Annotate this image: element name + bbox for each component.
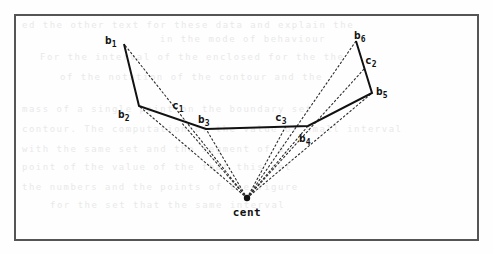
boundary-point-label-b2: b2 — [118, 108, 130, 123]
boundary-point-label-b4: b4 — [299, 132, 311, 147]
center-point-dot — [244, 195, 250, 201]
center-ray-c2 — [247, 68, 365, 198]
center-ray-c1 — [181, 122, 247, 198]
point-labels-group: b1b2b3b4b5b6c1c2c3 — [105, 29, 388, 147]
center-rays-group — [124, 41, 372, 198]
boundary-point-label-b5: b5 — [376, 85, 388, 100]
control-point-label-c1: c1 — [172, 99, 184, 114]
figure-container: ed the other text for these data and exp… — [0, 0, 493, 254]
control-point-label-c2: c2 — [365, 54, 377, 69]
geometry-diagram: cent b1b2b3b4b5b6c1c2c3 — [0, 0, 493, 254]
boundary-point-label-b6: b6 — [354, 29, 366, 44]
center-ray-c3 — [247, 126, 286, 198]
center-point-group: cent — [233, 195, 262, 219]
center-point-label: cent — [233, 206, 262, 219]
boundary-point-label-b3: b3 — [198, 113, 210, 128]
boundary-polyline — [124, 41, 372, 129]
center-ray-b6 — [247, 41, 356, 198]
center-ray-b2 — [139, 106, 247, 198]
control-point-label-c3: c3 — [275, 111, 287, 126]
boundary-polyline-group — [124, 41, 372, 129]
center-ray-b3 — [206, 129, 247, 198]
boundary-point-label-b1: b1 — [105, 34, 117, 49]
